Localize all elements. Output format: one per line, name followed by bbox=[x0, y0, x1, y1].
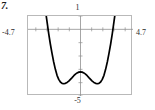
plot-canvas bbox=[28, 16, 133, 96]
graph-figure: 7. 1 -5 -4.7 4.7 bbox=[0, 0, 155, 110]
axes-group bbox=[28, 16, 133, 96]
x-max-label: 4.7 bbox=[136, 29, 146, 37]
plot-frame bbox=[27, 15, 132, 95]
y-min-label: -5 bbox=[0, 97, 155, 105]
y-max-label: 1 bbox=[0, 4, 155, 12]
x-min-label: -4.7 bbox=[2, 29, 15, 37]
